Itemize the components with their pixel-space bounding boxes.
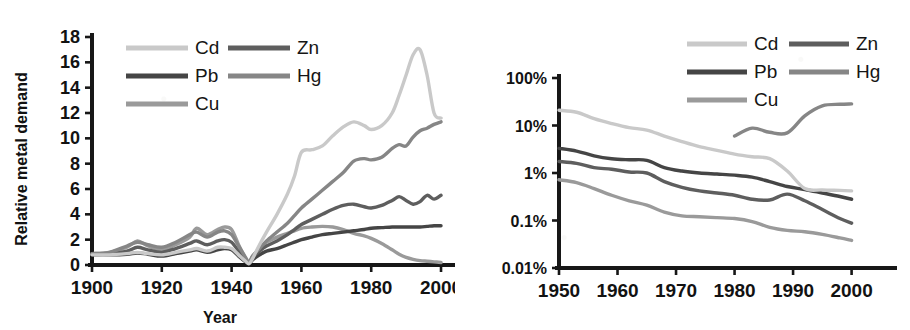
left-y-tick-label: 18 [60, 27, 80, 47]
right-chart-svg: 0.01%0.1%1%10%100%1950196019701980199020… [455, 0, 910, 330]
left-y-axis-title: Relative metal demand [13, 72, 30, 245]
left-chart-series [92, 48, 441, 263]
left-y-tick-label: 4 [70, 204, 80, 224]
right-y-tick-label: 0.01% [502, 260, 547, 277]
right-chart-legend: CdZnPbHgCu [687, 33, 880, 110]
right-legend-label-cu: Cu [754, 89, 778, 110]
left-y-tick-label: 8 [70, 154, 80, 174]
left-legend-label-cu: Cu [195, 93, 219, 114]
right-x-tick-label: 1990 [772, 280, 814, 301]
left-y-tick-label: 10 [60, 128, 80, 148]
right-series-line-hg [735, 104, 852, 136]
right-y-tick-label: 1% [524, 165, 547, 182]
left-y-tick-label: 12 [60, 103, 80, 123]
left-y-tick-label: 16 [60, 52, 80, 72]
right-x-tick-label: 2000 [830, 280, 872, 301]
left-x-tick-label: 1980 [350, 277, 392, 298]
left-y-tick-label: 2 [70, 230, 80, 250]
left-legend-label-hg: Hg [297, 65, 321, 86]
left-x-axis-title: Year [203, 309, 237, 326]
right-y-tick-label: 10% [515, 118, 547, 135]
right-y-tick-label: 0.1% [511, 213, 547, 230]
right-series-line-cd [559, 110, 852, 191]
right-legend-label-pb: Pb [754, 61, 777, 82]
left-series-line-hg [92, 122, 441, 263]
left-y-tick-label: 14 [60, 78, 80, 98]
left-y-tick-label: 0 [70, 255, 80, 275]
left-legend-label-zn: Zn [297, 37, 319, 58]
right-x-tick-label: 1950 [538, 280, 580, 301]
left-y-tick-label: 6 [70, 179, 80, 199]
right-legend-label-hg: Hg [856, 61, 880, 82]
left-x-tick-label: 2000 [420, 277, 455, 298]
chart-panel-relative-metal-demand: 024681012141618190019201940196019802000 … [0, 0, 455, 330]
left-x-tick-label: 1900 [71, 277, 113, 298]
left-chart-legend: CdZnPbHgCu [126, 37, 321, 114]
left-chart-svg: 024681012141618190019201940196019802000 … [0, 0, 455, 330]
left-legend-label-cd: Cd [195, 37, 219, 58]
metal-demand-figure: 024681012141618190019201940196019802000 … [0, 0, 910, 330]
chart-panel-metal-recycling-share: 0.01%0.1%1%10%100%1950196019701980199020… [455, 0, 910, 330]
right-x-tick-label: 1960 [596, 280, 638, 301]
right-y-tick-label: 100% [506, 70, 547, 87]
right-x-tick-label: 1970 [655, 280, 697, 301]
left-x-tick-label: 1940 [210, 277, 252, 298]
right-legend-label-cd: Cd [754, 33, 778, 54]
left-legend-label-pb: Pb [195, 65, 218, 86]
right-x-tick-label: 1980 [713, 280, 755, 301]
left-x-tick-label: 1960 [280, 277, 322, 298]
right-chart-series [559, 104, 852, 241]
right-legend-label-zn: Zn [856, 33, 878, 54]
left-x-tick-label: 1920 [141, 277, 183, 298]
left-series-line-cd [92, 48, 441, 263]
